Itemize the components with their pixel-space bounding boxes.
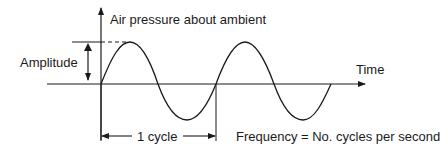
amplitude-arrow-up-icon xyxy=(84,43,92,51)
frequency-label: Frequency = No. cycles per second xyxy=(236,130,440,143)
y-axis-label: Air pressure about ambient xyxy=(110,13,266,26)
cycle-label: 1 cycle xyxy=(137,130,177,143)
x-axis-label: Time xyxy=(356,63,384,76)
amplitude-label: Amplitude xyxy=(20,56,78,69)
